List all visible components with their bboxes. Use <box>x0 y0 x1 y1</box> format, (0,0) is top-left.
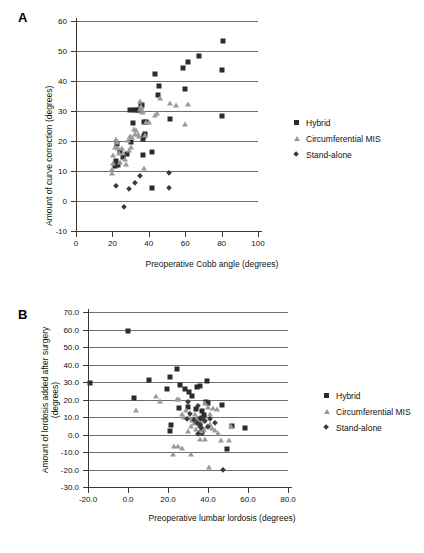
legend-label: Hybrid <box>336 391 361 401</box>
data-point <box>137 98 143 103</box>
y-axis-line <box>88 309 89 487</box>
x-axis-title-b: Preoperative lumbar lordosis (degrees) <box>10 513 424 523</box>
x-axis-tick <box>88 488 89 493</box>
filled-diamond-marker <box>292 152 301 156</box>
data-point <box>205 379 210 384</box>
data-point <box>243 426 248 431</box>
data-point <box>175 367 180 372</box>
data-point <box>110 152 116 157</box>
data-point <box>126 147 132 152</box>
x-axis-tick-label: 100 <box>251 239 264 248</box>
legend-item-hybrid: Hybrid <box>322 389 411 402</box>
legend-label: Circumferential MIS <box>306 134 381 144</box>
data-point <box>109 171 115 176</box>
data-point <box>219 113 224 118</box>
x-axis-tick-label: 80 <box>217 239 226 248</box>
data-point <box>141 165 147 170</box>
data-point <box>165 386 170 391</box>
legend-b: HybridCircumferential MISStand-alone <box>322 389 411 437</box>
panel-a: A -100102030405060020406080100 Amount of… <box>0 0 424 280</box>
data-point <box>121 204 127 210</box>
gridline <box>76 111 258 112</box>
data-point <box>215 431 221 436</box>
data-point <box>132 180 138 186</box>
legend-swatch <box>324 393 329 398</box>
gridline <box>88 347 288 348</box>
x-axis-tick-label: 40 <box>144 239 153 248</box>
data-point <box>188 452 194 457</box>
data-point <box>220 67 225 72</box>
data-point <box>169 423 174 428</box>
y-axis-tick-label: 30 <box>53 107 67 116</box>
data-point <box>153 72 158 77</box>
data-point <box>190 393 195 398</box>
data-point <box>196 54 201 59</box>
panel-label-b: B <box>18 307 28 322</box>
data-point <box>173 103 179 108</box>
data-point <box>149 186 154 191</box>
data-point <box>113 137 119 142</box>
gridline <box>88 330 288 331</box>
data-point <box>170 452 176 457</box>
data-point <box>152 113 158 118</box>
data-point <box>125 137 131 142</box>
data-point <box>157 83 162 88</box>
legend-item-hybrid: Hybrid <box>292 116 381 129</box>
filled-diamond-marker <box>322 425 331 429</box>
x-axis-tick <box>248 488 249 493</box>
data-point <box>185 428 191 433</box>
x-axis-tick <box>222 232 223 237</box>
gridline <box>88 312 288 313</box>
y-axis-tick-label: 10 <box>53 167 67 176</box>
legend-item-stand-alone: Stand-alone <box>322 421 411 434</box>
data-point <box>168 428 173 433</box>
gridline <box>76 51 258 52</box>
legend-swatch <box>294 152 300 158</box>
data-point <box>202 437 208 442</box>
data-point <box>226 438 232 443</box>
data-point <box>150 150 155 155</box>
data-point <box>228 424 234 429</box>
gridline <box>76 81 258 82</box>
data-point <box>137 173 143 179</box>
y-axis-tick-label: -10 <box>53 227 67 236</box>
legend-label: Stand-alone <box>336 423 382 433</box>
data-point <box>117 160 123 165</box>
data-point <box>127 107 132 112</box>
x-axis-tick-label: 60.0 <box>240 495 256 504</box>
data-point <box>167 116 172 121</box>
data-point <box>182 87 187 92</box>
x-axis-tick <box>128 488 129 493</box>
data-point <box>220 467 226 473</box>
scatter-plot-b <box>88 312 288 487</box>
legend-label: Circumferential MIS <box>336 407 411 417</box>
filled-square-marker <box>292 120 301 125</box>
y-axis-tick-label: 0 <box>53 197 67 206</box>
panel-b: B -30.0-20.0-10.00.010.020.030.040.050.0… <box>0 280 424 553</box>
legend-swatch <box>324 425 330 431</box>
x-axis-tick-label: 80.0 <box>280 495 296 504</box>
x-axis-tick <box>149 232 150 237</box>
data-point <box>126 186 132 192</box>
data-point <box>218 437 224 442</box>
data-point <box>137 107 143 112</box>
gridline <box>88 470 288 471</box>
legend-label: Stand-alone <box>306 150 352 160</box>
y-axis-title-b: Amount of lordosis added after surgery (… <box>40 312 60 488</box>
data-point <box>177 405 182 410</box>
x-axis-tick-label: 40.0 <box>200 495 216 504</box>
data-point <box>206 465 212 470</box>
x-axis-tick <box>208 488 209 493</box>
data-point <box>220 39 225 44</box>
data-point <box>179 445 185 450</box>
x-axis-tick-label: 20.0 <box>160 495 176 504</box>
plot-area-a <box>76 21 258 231</box>
data-point <box>147 378 152 383</box>
data-point <box>195 384 200 389</box>
data-point <box>132 395 137 400</box>
x-axis-tick <box>258 232 259 237</box>
filled-square-marker <box>322 393 331 398</box>
filled-triangle-marker <box>322 409 331 414</box>
legend-swatch <box>294 120 299 125</box>
y-axis-tick-label: 50 <box>53 47 67 56</box>
